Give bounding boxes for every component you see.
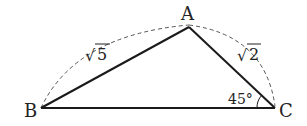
radical-sign: √	[85, 46, 96, 65]
side-ab-length-label: √ 5	[85, 44, 110, 65]
side-ab-value: 5	[97, 45, 107, 64]
angle-c-arc	[257, 95, 262, 108]
side-ab	[41, 27, 189, 108]
side-ac-value: 2	[249, 45, 259, 64]
vertex-c-label: C	[279, 100, 293, 121]
side-ac-length-label: √ 2	[237, 44, 261, 65]
vertex-a-label: A	[180, 3, 195, 24]
radical-sign: √	[237, 46, 248, 65]
triangle-diagram: A B C √ 5 √ 2 45°	[0, 0, 307, 126]
angle-c-label: 45°	[228, 91, 253, 107]
vertex-b-label: B	[24, 100, 37, 121]
